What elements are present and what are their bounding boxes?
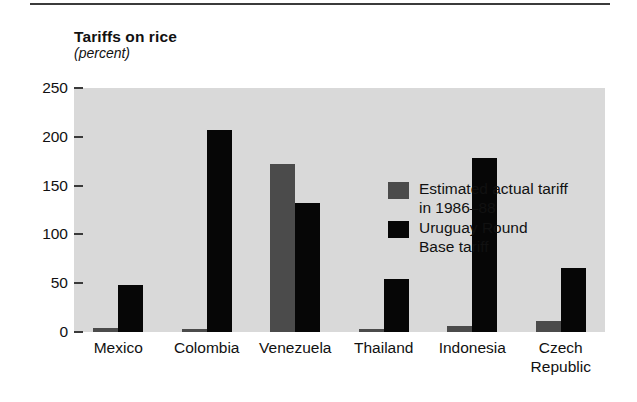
x-axis-tick-label: Colombia [163,338,252,357]
y-axis-tick-label: 100 [42,225,68,243]
legend-label: Estimated actual tariff in 1986–88 [419,180,568,217]
bar-uruguay-round-base-tariff [207,130,232,332]
bar-estimated-actual-tariff [182,329,207,332]
y-axis-tick-mark [74,282,83,284]
chart-title: Tariffs on rice [74,28,177,45]
y-axis-tick-label: 150 [42,177,68,195]
y-axis-tick-label: 200 [42,128,68,146]
legend-item: Estimated actual tariff in 1986–88 [388,180,637,217]
plot-area: Estimated actual tariff in 1986–88Urugua… [74,88,605,332]
y-axis-tick-mark [74,233,83,235]
chart-legend: Estimated actual tariff in 1986–88Urugua… [388,180,637,258]
bar-uruguay-round-base-tariff [384,279,409,332]
x-axis-tick-label: Indonesia [428,338,517,357]
x-axis-labels: MexicoColombiaVenezuelaThailandIndonesia… [74,338,605,398]
bar-estimated-actual-tariff [447,326,472,332]
y-axis-labels: 050100150200250 [0,88,68,332]
legend-item: Uruguay Round Base tariff [388,219,637,256]
chart-title-block: Tariffs on rice (percent) [74,28,177,62]
y-axis-tick-label: 250 [42,79,68,97]
y-axis-tick-mark [74,185,83,187]
y-axis-tick-mark [74,87,83,89]
header-rule [30,3,610,5]
x-axis-tick-label: Thailand [340,338,429,357]
bar-uruguay-round-base-tariff [118,285,143,332]
bar-uruguay-round-base-tariff [295,203,320,332]
x-axis-tick-label: Czech Republic [517,338,606,376]
x-axis-tick-label: Venezuela [251,338,340,357]
chart-subtitle: (percent) [74,46,177,62]
legend-swatch-icon [388,182,409,199]
y-axis-tick-label: 50 [51,274,68,292]
y-axis-tick-mark [74,136,83,138]
chart-figure: Tariffs on rice (percent) 05010015020025… [0,0,637,402]
y-axis-tick-label: 0 [59,323,68,341]
legend-swatch-icon [388,221,409,238]
bar-uruguay-round-base-tariff [561,268,586,332]
bar-estimated-actual-tariff [359,329,384,332]
bar-estimated-actual-tariff [93,328,118,332]
legend-label: Uruguay Round Base tariff [419,219,528,256]
bar-estimated-actual-tariff [536,321,561,332]
y-axis-tick-mark [74,331,83,333]
bar-estimated-actual-tariff [270,164,295,332]
x-axis-tick-label: Mexico [74,338,163,357]
